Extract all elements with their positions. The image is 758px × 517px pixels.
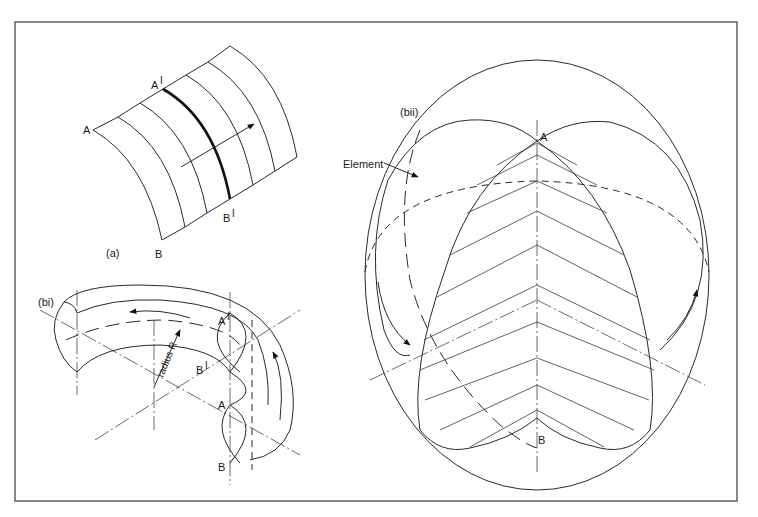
technical-figure: A A I B B I (a) (bi) radius R A [0,0,758,517]
panel-bii-caption: (bii) [400,106,418,118]
panel-a-caption: (a) [106,247,119,259]
label-bii-element: Element [343,158,383,170]
label-bi-point-A-prime: A [218,315,226,327]
label-a-point-B-prime: B [223,212,230,224]
panel-a-diagram [93,46,297,240]
label-a-point-B: B [155,248,162,260]
panel-bi-caption: (bi) [38,296,54,308]
panel-bi-diagram [40,285,300,485]
label-a-point-A: A [83,124,91,136]
label-bi-point-B-prime: B [196,364,203,376]
label-bi-prime-mark-A: I [227,311,230,322]
panel-bii-diagram [365,60,709,490]
label-bi-prime-mark-B: I [205,360,208,371]
label-bi-point-A: A [218,399,226,411]
label-a-prime-mark-A: I [160,75,163,86]
label-bi-radius: radius R [155,340,179,379]
label-bii-point-A: A [540,131,548,143]
label-bi-point-B: B [218,461,225,473]
label-a-prime-mark-B: I [232,208,235,219]
label-a-point-A-prime: A [151,79,159,91]
label-bii-point-B: B [538,434,545,446]
figure-frame [15,22,737,501]
